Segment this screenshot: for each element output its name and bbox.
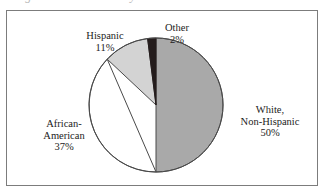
pie-label-african-american-name1: African- [46,118,82,129]
pie-slice-white-non-hispanic[interactable] [156,38,223,172]
pie-label-african-american-percent: 37% [25,141,103,153]
pie-label-hispanic-percent: 11% [69,42,141,54]
pie-label-white-non-hispanic-name1: White, [256,104,284,115]
pie-label-african-american: African- American 37% [25,118,103,153]
pie-label-other: Other 2% [147,22,207,45]
pie-label-white-non-hispanic: White, Non-Hispanic 50% [223,104,317,139]
chart-frame: Other 2% Hispanic 11% African- American … [6,10,318,186]
pie-label-african-american-name2: American [25,130,103,142]
pie-label-hispanic: Hispanic 11% [69,30,141,53]
pie-label-other-percent: 2% [147,34,207,46]
pie-label-white-non-hispanic-percent: 50% [223,127,317,139]
pie-label-white-non-hispanic-name2: Non-Hispanic [223,116,317,128]
pie-label-other-name: Other [165,22,189,33]
cropped-caption-strip: Figure 3. Enrollment by Race [0,0,326,9]
pie-label-hispanic-name: Hispanic [86,30,123,41]
caption-ghost-text: Figure 3. Enrollment by Race [14,0,164,4]
